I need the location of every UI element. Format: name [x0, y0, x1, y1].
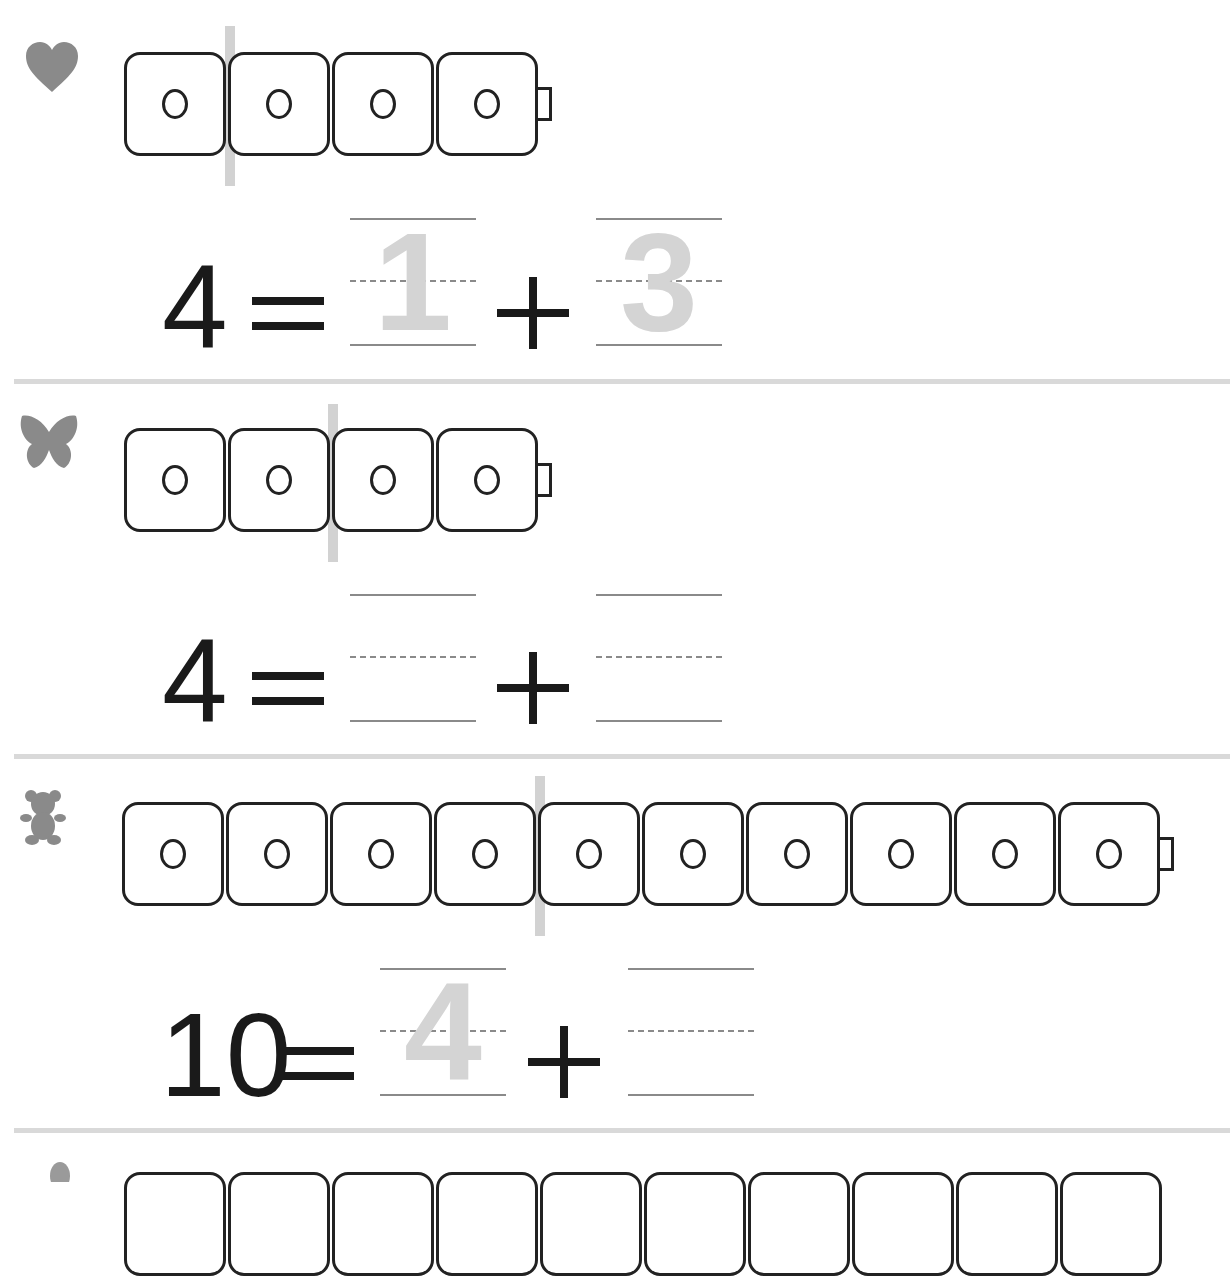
cube: [540, 1172, 642, 1276]
cube: [748, 1172, 850, 1276]
trace-digit: 3: [596, 218, 722, 346]
trace-digit: [350, 594, 476, 722]
cube: [850, 802, 952, 906]
cube: [122, 802, 224, 906]
cube: [644, 1172, 746, 1276]
cube-train: [124, 428, 552, 532]
answer-box-b[interactable]: 3: [596, 218, 722, 346]
butterfly-icon: [18, 414, 80, 470]
trace-digit: 4: [380, 968, 506, 1096]
cube: [330, 802, 432, 906]
heart-icon: [24, 40, 80, 94]
answer-box-b[interactable]: [596, 594, 722, 722]
cube: [124, 52, 226, 156]
equals-sign: [252, 672, 324, 722]
cube: [228, 52, 330, 156]
cube-train: [124, 52, 552, 156]
cube: [538, 802, 640, 906]
cube-connector: [1160, 837, 1174, 871]
trace-digit: 1: [350, 218, 476, 346]
total-number: 4: [162, 622, 228, 740]
cube: [436, 52, 538, 156]
section-divider: [14, 1128, 1230, 1133]
pear-icon: [48, 1162, 72, 1182]
cube-connector: [538, 87, 552, 121]
cube: [954, 802, 1056, 906]
answer-box-a[interactable]: [350, 594, 476, 722]
plus-sign: [497, 652, 569, 724]
total-number: 10: [160, 996, 291, 1114]
cube-connector: [538, 463, 552, 497]
cube: [228, 428, 330, 532]
total-number: 4: [162, 248, 228, 366]
cube: [226, 802, 328, 906]
answer-box-a[interactable]: 4: [380, 968, 506, 1096]
plus-sign: [528, 1026, 600, 1098]
cube: [124, 428, 226, 532]
cube: [852, 1172, 954, 1276]
cube: [436, 428, 538, 532]
cube: [956, 1172, 1058, 1276]
cube-train: [124, 1172, 1162, 1276]
answer-box-a[interactable]: 1: [350, 218, 476, 346]
answer-box-b[interactable]: [628, 968, 754, 1096]
cube: [434, 802, 536, 906]
cube: [332, 52, 434, 156]
cube: [1060, 1172, 1162, 1276]
equals-sign: [282, 1047, 354, 1097]
cube: [124, 1172, 226, 1276]
section-divider: [14, 754, 1230, 759]
section-divider: [14, 379, 1230, 384]
trace-digit: [628, 968, 754, 1096]
teddy-bear-icon: [20, 788, 66, 846]
plus-sign: [497, 277, 569, 349]
cube: [436, 1172, 538, 1276]
cube: [332, 1172, 434, 1276]
trace-digit: [596, 594, 722, 722]
equals-sign: [252, 297, 324, 347]
cube: [746, 802, 848, 906]
cube: [1058, 802, 1160, 906]
cube: [642, 802, 744, 906]
cube: [332, 428, 434, 532]
cube-train: [122, 802, 1174, 906]
cube: [228, 1172, 330, 1276]
